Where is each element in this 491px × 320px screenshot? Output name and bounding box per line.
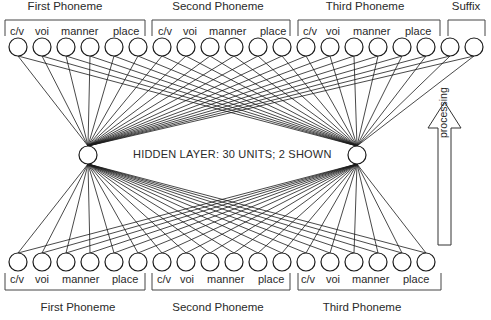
input-unit (321, 253, 339, 271)
input-unit (105, 253, 123, 271)
bottom-feature-cv-1: c/v (10, 273, 24, 285)
top-feature-cv-1: c/v (10, 25, 24, 37)
input-unit (153, 253, 171, 271)
top-feature-place-2: place (260, 25, 286, 37)
output-unit (9, 38, 27, 56)
bottom-feature-manner-1: manner (62, 273, 99, 285)
output-unit (393, 38, 411, 56)
hidden-layer-label: HIDDEN LAYER: 30 UNITS; 2 SHOWN (133, 148, 332, 160)
output-unit (321, 38, 339, 56)
top-feature-place-1: place (113, 25, 139, 37)
output-unit (81, 38, 99, 56)
bottom-feature-voi-3: voi (326, 273, 340, 285)
top-feature-manner-3: manner (353, 25, 390, 37)
output-unit (465, 38, 483, 56)
bottom-feature-manner-3: manner (352, 273, 389, 285)
output-unit (201, 38, 219, 56)
output-unit (33, 38, 51, 56)
input-unit (273, 253, 291, 271)
output-unit (105, 38, 123, 56)
hidden-unit (79, 146, 97, 164)
output-unit (249, 38, 267, 56)
top-group-label-second-phoneme: Second Phoneme (172, 0, 263, 12)
output-unit (273, 38, 291, 56)
input-unit (393, 253, 411, 271)
input-unit (225, 253, 243, 271)
bottom-group-label-first-phoneme: First Phoneme (41, 301, 116, 313)
output-unit (57, 38, 75, 56)
input-unit (177, 253, 195, 271)
top-feature-place-3: place (405, 25, 431, 37)
bottom-feature-voi-2: voi (180, 273, 194, 285)
top-feature-cv-3: c/v (303, 25, 317, 37)
input-unit (345, 253, 363, 271)
output-unit (417, 38, 435, 56)
bottom-feature-place-1: place (112, 273, 138, 285)
bottom-feature-place-3: place (403, 273, 429, 285)
input-unit (81, 253, 99, 271)
top-feature-manner-2: manner (209, 25, 246, 37)
hidden-unit (348, 146, 366, 164)
input-unit (369, 253, 387, 271)
output-unit (153, 38, 171, 56)
top-group-bracket (448, 20, 485, 36)
output-unit (345, 38, 363, 56)
output-unit (177, 38, 195, 56)
input-unit (297, 253, 315, 271)
network-diagram (0, 0, 491, 320)
input-unit (9, 253, 27, 271)
input-unit (201, 253, 219, 271)
input-unit (249, 253, 267, 271)
bottom-feature-cv-3: c/v (301, 273, 315, 285)
top-feature-cv-2: c/v (158, 25, 172, 37)
input-unit (33, 253, 51, 271)
bottom-group-label-second-phoneme: Second Phoneme (172, 301, 263, 313)
top-feature-voi-1: voi (35, 25, 49, 37)
top-group-label-third-phoneme: Third Phoneme (326, 0, 405, 12)
top-feature-manner-1: manner (61, 25, 98, 37)
output-unit (129, 38, 147, 56)
input-unit (129, 253, 147, 271)
top-group-label-suffix: Suffix (452, 0, 481, 12)
bottom-feature-voi-1: voi (35, 273, 49, 285)
output-unit (297, 38, 315, 56)
top-feature-voi-3: voi (326, 25, 340, 37)
bottom-feature-manner-2: manner (207, 273, 244, 285)
top-feature-voi-2: voi (183, 25, 197, 37)
output-unit (225, 38, 243, 56)
bottom-feature-place-2: place (258, 273, 284, 285)
input-unit (57, 253, 75, 271)
output-unit (369, 38, 387, 56)
processing-label: processing (437, 87, 449, 138)
input-unit (417, 253, 435, 271)
output-unit (441, 38, 459, 56)
bottom-group-label-third-phoneme: Third Phoneme (323, 301, 402, 313)
top-group-label-first-phoneme: First Phoneme (28, 0, 103, 12)
bottom-feature-cv-2: c/v (157, 273, 171, 285)
